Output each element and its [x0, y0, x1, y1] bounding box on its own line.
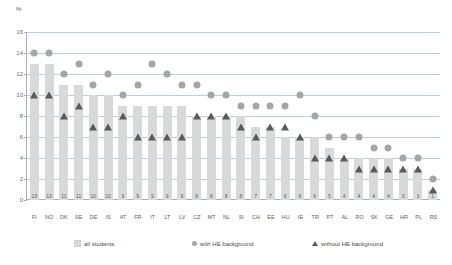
triangle-marker-icon[interactable]	[45, 92, 53, 99]
triangle-marker-icon[interactable]	[340, 155, 348, 162]
bar-column[interactable]: 4	[352, 32, 367, 200]
bar[interactable]: 8	[222, 116, 231, 200]
triangle-marker-icon[interactable]	[207, 113, 215, 120]
bar-column[interactable]: 7	[248, 32, 263, 200]
bar[interactable]: 3	[413, 169, 422, 201]
circle-marker-icon[interactable]	[296, 92, 303, 99]
bar[interactable]: 3	[399, 169, 408, 201]
triangle-marker-icon[interactable]	[281, 123, 289, 130]
bar-column[interactable]: 3	[396, 32, 411, 200]
bar-column[interactable]: 9	[160, 32, 175, 200]
bar[interactable]: 8	[192, 116, 201, 200]
bar[interactable]: 9	[177, 106, 186, 201]
bar[interactable]: 11	[59, 85, 68, 201]
bar-column[interactable]: 11	[71, 32, 86, 200]
triangle-marker-icon[interactable]	[104, 123, 112, 130]
circle-marker-icon[interactable]	[149, 60, 156, 67]
bar-column[interactable]: 1	[425, 32, 440, 200]
circle-marker-icon[interactable]	[252, 102, 259, 109]
bar[interactable]: 9	[133, 106, 142, 201]
triangle-marker-icon[interactable]	[119, 113, 127, 120]
bar[interactable]: 6	[310, 137, 319, 200]
triangle-marker-icon[interactable]	[163, 134, 171, 141]
bar-column[interactable]: 6	[307, 32, 322, 200]
bar[interactable]: 4	[340, 158, 349, 200]
bar[interactable]: 9	[148, 106, 157, 201]
triangle-marker-icon[interactable]	[193, 113, 201, 120]
bar-column[interactable]: 4	[337, 32, 352, 200]
triangle-marker-icon[interactable]	[148, 134, 156, 141]
bar[interactable]: 9	[118, 106, 127, 201]
circle-marker-icon[interactable]	[193, 81, 200, 88]
circle-marker-icon[interactable]	[341, 134, 348, 141]
circle-marker-icon[interactable]	[326, 134, 333, 141]
triangle-marker-icon[interactable]	[266, 123, 274, 130]
triangle-marker-icon[interactable]	[296, 134, 304, 141]
triangle-marker-icon[interactable]	[178, 134, 186, 141]
circle-marker-icon[interactable]	[429, 176, 436, 183]
bar[interactable]: 9	[163, 106, 172, 201]
bar[interactable]: 6	[281, 137, 290, 200]
bar[interactable]: 7	[266, 127, 275, 201]
bar-column[interactable]: 9	[175, 32, 190, 200]
triangle-marker-icon[interactable]	[429, 186, 437, 193]
circle-marker-icon[interactable]	[134, 81, 141, 88]
triangle-marker-icon[interactable]	[60, 113, 68, 120]
bar[interactable]: 6	[295, 137, 304, 200]
bar-column[interactable]: 4	[366, 32, 381, 200]
bar-column[interactable]: 13	[27, 32, 42, 200]
bar-column[interactable]: 8	[204, 32, 219, 200]
bar-column[interactable]: 13	[42, 32, 57, 200]
circle-marker-icon[interactable]	[119, 92, 126, 99]
bar[interactable]: 8	[207, 116, 216, 200]
triangle-marker-icon[interactable]	[355, 165, 363, 172]
bar-column[interactable]: 11	[57, 32, 72, 200]
bar-column[interactable]: 5	[322, 32, 337, 200]
triangle-marker-icon[interactable]	[237, 123, 245, 130]
circle-marker-icon[interactable]	[105, 71, 112, 78]
circle-marker-icon[interactable]	[46, 50, 53, 57]
bar-column[interactable]: 8	[234, 32, 249, 200]
bar-column[interactable]: 4	[381, 32, 396, 200]
bar-column[interactable]: 8	[189, 32, 204, 200]
triangle-marker-icon[interactable]	[30, 92, 38, 99]
triangle-marker-icon[interactable]	[222, 113, 230, 120]
circle-marker-icon[interactable]	[75, 60, 82, 67]
circle-marker-icon[interactable]	[400, 155, 407, 162]
bar-column[interactable]: 10	[101, 32, 116, 200]
triangle-marker-icon[interactable]	[384, 165, 392, 172]
circle-marker-icon[interactable]	[60, 71, 67, 78]
bar-column[interactable]: 3	[411, 32, 426, 200]
triangle-marker-icon[interactable]	[414, 165, 422, 172]
circle-marker-icon[interactable]	[223, 92, 230, 99]
triangle-marker-icon[interactable]	[370, 165, 378, 172]
bar-column[interactable]: 9	[130, 32, 145, 200]
bar-column[interactable]: 10	[86, 32, 101, 200]
triangle-marker-icon[interactable]	[311, 155, 319, 162]
triangle-marker-icon[interactable]	[75, 102, 83, 109]
triangle-marker-icon[interactable]	[252, 134, 260, 141]
bar-column[interactable]: 8	[219, 32, 234, 200]
circle-marker-icon[interactable]	[385, 144, 392, 151]
bar-column[interactable]: 7	[263, 32, 278, 200]
triangle-marker-icon[interactable]	[399, 165, 407, 172]
bar[interactable]: 13	[45, 64, 54, 201]
circle-marker-icon[interactable]	[311, 113, 318, 120]
circle-marker-icon[interactable]	[355, 134, 362, 141]
triangle-marker-icon[interactable]	[325, 155, 333, 162]
circle-marker-icon[interactable]	[267, 102, 274, 109]
bar[interactable]: 10	[104, 95, 113, 200]
triangle-marker-icon[interactable]	[134, 134, 142, 141]
bar[interactable]: 13	[30, 64, 39, 201]
circle-marker-icon[interactable]	[414, 155, 421, 162]
circle-marker-icon[interactable]	[282, 102, 289, 109]
bar-column[interactable]: 6	[293, 32, 308, 200]
triangle-marker-icon[interactable]	[89, 123, 97, 130]
bar[interactable]: 10	[89, 95, 98, 200]
circle-marker-icon[interactable]	[164, 71, 171, 78]
circle-marker-icon[interactable]	[208, 92, 215, 99]
circle-marker-icon[interactable]	[178, 81, 185, 88]
bar-column[interactable]: 9	[116, 32, 131, 200]
circle-marker-icon[interactable]	[31, 50, 38, 57]
circle-marker-icon[interactable]	[237, 102, 244, 109]
